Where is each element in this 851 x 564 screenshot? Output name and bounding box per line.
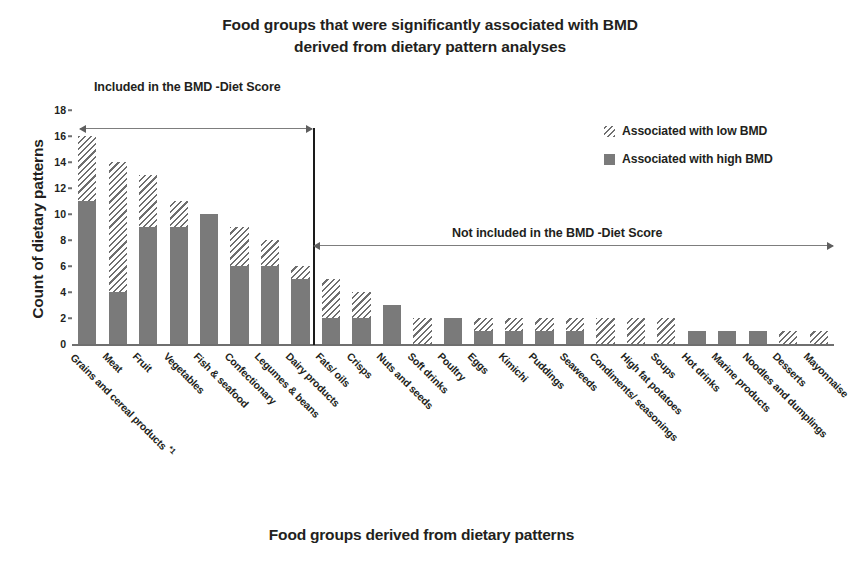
bar-segment-high-bmd [505,331,523,344]
annotation-not-included-label: Not included in the BMD -Diet Score [452,226,662,240]
bar-segment-low-bmd [230,227,248,266]
x-axis-category-label: Eggs [466,350,492,376]
bar [109,162,127,344]
bar [230,227,248,344]
bar-segment-high-bmd [200,214,218,344]
bar-segment-high-bmd [535,331,553,344]
legend-item-high-bmd: Associated with high BMD [604,152,773,166]
bar-segment-low-bmd [627,318,645,344]
bar [779,331,797,344]
legend-swatch-solid-icon [604,154,615,165]
bar [444,318,462,344]
bar-segment-low-bmd [566,318,584,331]
bar-segment-high-bmd [474,331,492,344]
bar-segment-high-bmd [688,331,706,344]
annotation-not-included-arrow [314,245,833,246]
bar [688,331,706,344]
bar-segment-high-bmd [139,227,157,344]
bar-segment-high-bmd [383,305,401,344]
y-axis-tick-mark [68,109,72,111]
bar-segment-high-bmd [291,279,309,344]
bar [596,318,614,344]
annotation-included-label: Included in the BMD -Diet Score [94,80,281,94]
bar [78,136,96,344]
bar-segment-low-bmd [779,331,797,344]
bar-segment-high-bmd [749,331,767,344]
y-axis-tick-label: 16 [40,130,66,142]
y-axis-tick-label: 14 [40,156,66,168]
bar-segment-low-bmd [810,331,828,344]
bar-segment-low-bmd [505,318,523,331]
score-divider-line [313,128,315,345]
bar-segment-high-bmd [230,266,248,344]
bar-segment-low-bmd [78,136,96,201]
bar [474,318,492,344]
chart-legend: Associated with low BMD Associated with … [604,124,773,180]
bar [322,279,340,344]
arrow-head-left-icon [79,125,86,133]
bar-segment-high-bmd [261,266,279,344]
y-axis-tick-label: 0 [40,338,66,350]
legend-label-high-bmd: Associated with high BMD [622,152,773,166]
bar [139,175,157,344]
y-axis-tick-label: 2 [40,312,66,324]
bar-segment-low-bmd [139,175,157,227]
bar [718,331,736,344]
bar-segment-low-bmd [657,318,675,344]
bar-segment-low-bmd [261,240,279,266]
bar [383,305,401,344]
bar [413,318,431,344]
bar [261,240,279,344]
bar-segment-high-bmd [566,331,584,344]
bar-segment-low-bmd [535,318,553,331]
bar [627,318,645,344]
y-axis-tick-label: 18 [40,104,66,116]
x-axis-category-label: Meat [100,350,125,375]
bar [352,292,370,344]
bar [566,318,584,344]
bar [200,214,218,344]
bar [810,331,828,344]
annotation-included-arrow [80,128,312,129]
bar [535,318,553,344]
arrow-head-left-icon [313,242,320,250]
bar [749,331,767,344]
bar-segment-high-bmd [444,318,462,344]
chart-title: Food groups that were significantly asso… [130,14,730,59]
bar-segment-low-bmd [596,318,614,344]
bar-segment-high-bmd [78,201,96,344]
bar [170,201,188,344]
bar-segment-low-bmd [474,318,492,331]
bar-segment-high-bmd [322,318,340,344]
arrow-head-right-icon [306,125,313,133]
arrow-head-right-icon [827,242,834,250]
x-axis-category-label: Fruit [131,350,155,374]
x-axis-category-label: Mayonnaise [801,350,851,400]
chart-title-line-1: Food groups that were significantly asso… [222,16,638,33]
y-axis-tick-label: 12 [40,182,66,194]
legend-item-low-bmd: Associated with low BMD [604,124,773,138]
bar [291,266,309,344]
y-axis-tick-label: 6 [40,260,66,272]
legend-swatch-hatched-icon [604,126,615,137]
y-axis-tick-label: 10 [40,208,66,220]
bar [657,318,675,344]
x-axis-title: Food groups derived from dietary pattern… [0,526,843,544]
bar-segment-low-bmd [109,162,127,292]
bar-segment-low-bmd [413,318,431,344]
chart-title-line-2: derived from dietary pattern analyses [294,38,566,55]
bar-segment-high-bmd [718,331,736,344]
x-axis-line [72,344,834,346]
bar-segment-high-bmd [170,227,188,344]
bar-segment-low-bmd [170,201,188,227]
bar-segment-low-bmd [322,279,340,318]
bar-segment-low-bmd [291,266,309,279]
bar-segment-low-bmd [352,292,370,318]
footnote-marker: *1 [166,444,177,455]
y-axis-tick-label: 4 [40,286,66,298]
bar-segment-high-bmd [352,318,370,344]
bar [505,318,523,344]
legend-label-low-bmd: Associated with low BMD [622,124,767,138]
bar-segment-high-bmd [109,292,127,344]
